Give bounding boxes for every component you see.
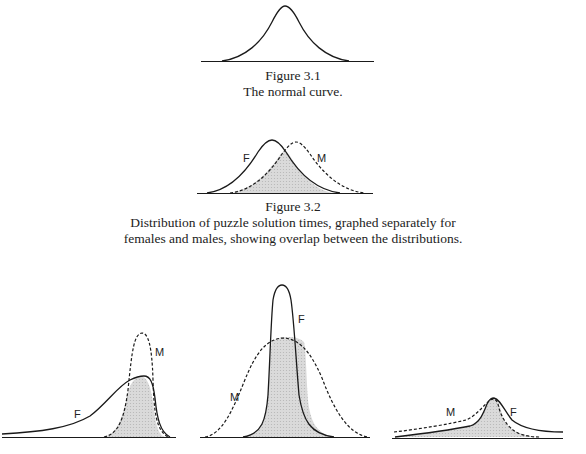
figure-3-3-panel-left: F M: [2, 333, 176, 438]
figure-3-3-left-label-male: M: [155, 346, 164, 358]
figure-3-1-normal-curve: [201, 6, 374, 62]
figure-3-3-left-label-female: F: [74, 408, 81, 420]
figure-3-3-panel-middle: F M: [200, 285, 370, 438]
figure-3-2-label-male: M: [317, 152, 326, 164]
figure-3-2-label-female: F: [243, 152, 250, 164]
figure-3-3-middle-label-male: M: [230, 391, 239, 403]
figure-3-3-right-label-male: M: [446, 406, 455, 418]
figure-3-2-number: Figure 3.2: [0, 199, 586, 215]
figure-3-3-right-label-female: F: [510, 406, 517, 418]
figure-3-1-caption: The normal curve.: [0, 84, 586, 100]
figure-3-3-panel-right: F M: [392, 398, 563, 439]
figure-3-2-overlap: F M: [197, 140, 373, 194]
figure-3-2-caption-line1: Distribution of puzzle solution times, g…: [0, 215, 586, 231]
figure-3-3-middle-label-female: F: [298, 313, 305, 325]
figure-3-1-number: Figure 3.1: [0, 68, 586, 84]
figure-3-2-caption-line2: females and males, showing overlap betwe…: [0, 231, 586, 247]
